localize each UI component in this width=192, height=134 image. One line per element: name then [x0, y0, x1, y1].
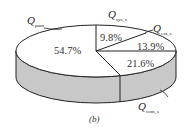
label-pum: Qpum [27, 14, 44, 28]
pct-pum: 54.7% [54, 45, 81, 56]
pct-ext: 13.9% [137, 41, 164, 52]
pct-com: 21.6% [127, 58, 154, 69]
label-ext: Qext_s [153, 22, 172, 36]
pct-sys: 9.8% [100, 32, 122, 43]
caption: (b) [89, 114, 100, 124]
label-com: Qcom_s [138, 100, 159, 114]
label-sys: Qsys_s [108, 8, 127, 22]
